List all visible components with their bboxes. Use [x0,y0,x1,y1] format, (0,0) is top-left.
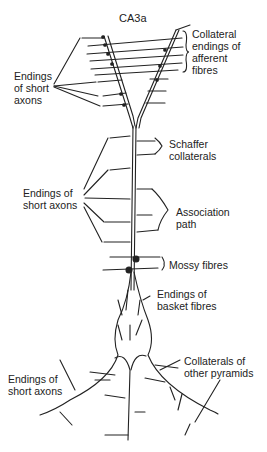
label-mossy: Mossy fibres [169,259,228,271]
apical-tuft [54,25,190,128]
label-basket: Endings of basket fibres [157,288,217,312]
label-short-axons-top: Endings of short axons [14,70,52,106]
title-label: CA3a [119,12,147,24]
label-short-axons-bottom: Endings of short axons [8,373,62,397]
label-collateral-afferent: Collateral endings of afferent fibres [192,28,240,76]
label-association: Association path [176,206,230,230]
label-schaffer: Schaffer collaterals [169,138,216,162]
apical-shaft [84,126,168,290]
label-short-axons-mid: Endings of short axons [23,187,77,211]
label-collaterals-pyramids: Collaterals of other pyramids [184,355,253,379]
